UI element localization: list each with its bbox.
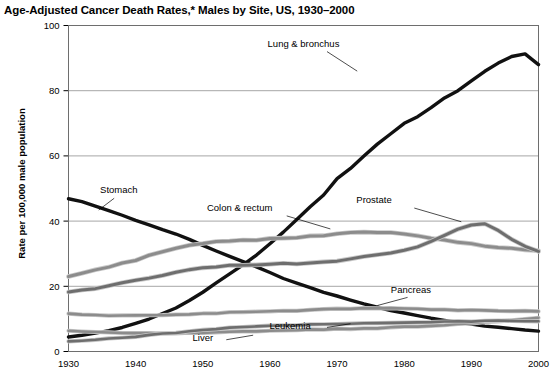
y-tick-label: 100 <box>44 20 60 31</box>
series-label-stomach: Stomach <box>100 184 138 195</box>
x-axis-tick-labels: 19301940195019601970198019902000 <box>58 358 549 369</box>
x-tick-label: 1970 <box>327 358 348 369</box>
x-tick-label: 1990 <box>461 358 482 369</box>
y-axis-tick-marks <box>64 26 69 352</box>
x-tick-label: 1940 <box>125 358 146 369</box>
chart-page: Age-Adjusted Cancer Death Rates,* Males … <box>0 0 560 379</box>
y-tick-label: 60 <box>49 150 60 161</box>
series-label-colon-rectum: Colon & rectum <box>207 202 273 213</box>
x-tick-label: 1950 <box>192 358 213 369</box>
series-label-prostate: Prostate <box>356 194 391 205</box>
leader-line <box>377 297 407 305</box>
line-chart: 020406080100 193019401950196019701980199… <box>0 0 560 379</box>
y-tick-label: 80 <box>49 85 60 96</box>
y-tick-label: 20 <box>49 281 60 292</box>
leader-line <box>414 208 461 222</box>
series-label-liver: Liver <box>192 332 213 343</box>
series-label-lung-bronchus: Lung & bronchus <box>268 38 340 49</box>
x-tick-label: 1960 <box>259 358 280 369</box>
data-series-group <box>69 54 539 342</box>
series-label-pancreas: Pancreas <box>391 284 431 295</box>
x-tick-label: 2000 <box>528 358 549 369</box>
leukemia-label: Leukemia <box>269 320 311 331</box>
series-line-lung-bronchus <box>69 54 539 337</box>
y-axis-tick-labels: 020406080100 <box>44 20 60 357</box>
annotation-leader-lines <box>99 52 462 340</box>
leader-line <box>327 52 357 72</box>
series-labels-group: Lung & bronchusStomachColon & rectumPros… <box>100 38 431 343</box>
y-tick-label: 0 <box>54 346 59 357</box>
series-outline-colon-rectum <box>69 232 539 276</box>
y-tick-label: 40 <box>49 216 60 227</box>
plot-border <box>69 26 539 352</box>
leader-line <box>226 335 253 340</box>
x-tick-label: 1980 <box>394 358 415 369</box>
x-tick-label: 1930 <box>58 358 79 369</box>
